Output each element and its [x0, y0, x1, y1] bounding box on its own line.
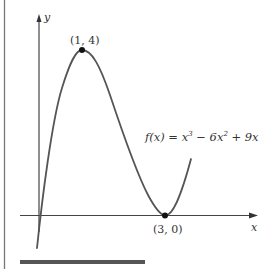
y-axis-arrow-icon [37, 14, 42, 22]
graph-figure: y x (1, 4) (3, 0) f(x) = x3 − 6x2 + 9x [0, 0, 267, 269]
function-curve [37, 50, 191, 248]
max-point-label: (1, 4) [70, 34, 100, 47]
max-point-marker [79, 47, 85, 53]
min-point-label: (3, 0) [153, 223, 183, 236]
x-axis-label: x [251, 221, 258, 234]
x-axis [20, 213, 258, 219]
min-point-marker [162, 213, 168, 219]
y-axis [37, 14, 42, 232]
y-axis-label: y [43, 11, 51, 24]
bottom-bar-divider [20, 260, 145, 264]
function-label: f(x) = x3 − 6x2 + 9x [144, 130, 259, 144]
x-axis-arrow-icon [249, 213, 258, 219]
